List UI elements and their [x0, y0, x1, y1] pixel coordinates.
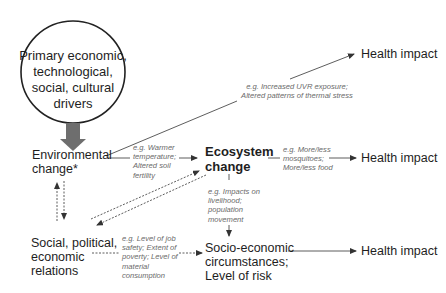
big-down-arrow-icon: [60, 123, 86, 151]
socio-line3: Level of risk: [205, 269, 294, 283]
social-line2: economic: [31, 250, 117, 264]
socio-line1: Socio-economic: [205, 241, 294, 255]
note-warmer: e.g. Warmer temperature; Altered soil fe…: [133, 143, 176, 180]
health-impact-middle: Health impact: [361, 151, 437, 165]
socio-line2: circumstances;: [205, 255, 294, 269]
note-mosquitoes-line1: e.g. More/less: [283, 145, 333, 154]
note-mosquitoes-line2: mosquitoes;: [283, 154, 333, 163]
env-to-health-top-line-b: [290, 54, 354, 79]
drivers-line4: drivers: [18, 96, 128, 112]
socio-economic-node: Socio-economic circumstances; Level of r…: [205, 241, 294, 283]
env-line2: change*: [32, 162, 112, 176]
note-warmer-line2: temperature;: [133, 152, 176, 161]
note-job-line1: e.g. Level of job: [122, 234, 178, 243]
note-livelihood-line3: population: [208, 205, 260, 214]
social-line1: Social, political,: [31, 236, 117, 250]
note-livelihood: e.g. Impacts on livelihood; population m…: [208, 187, 260, 224]
ecosystem-change-node: Ecosystem change: [205, 144, 274, 174]
health-impact-top: Health impact: [361, 47, 437, 61]
note-warmer-line3: Altered soil: [133, 161, 176, 170]
note-livelihood-line4: movement: [208, 215, 260, 224]
note-warmer-line4: fertility: [133, 171, 176, 180]
eco-to-social-dashed: [97, 175, 206, 225]
drivers-node: Primary economic, technological, social,…: [18, 48, 128, 112]
environmental-change-node: Environmental change*: [32, 148, 112, 176]
note-job-line3: poverty; Level of: [122, 252, 178, 261]
social-line3: relations: [31, 264, 117, 278]
note-uvr: e.g. Increased UVR exposure; Altered pat…: [222, 82, 372, 100]
note-job-line4: material: [122, 262, 178, 271]
social-relations-node: Social, political, economic relations: [31, 236, 117, 278]
eco-line2: change: [205, 159, 274, 174]
note-job-safety: e.g. Level of job safety; Extent of pove…: [122, 234, 178, 280]
note-job-line5: consumption: [122, 271, 178, 280]
drivers-line2: technological,: [18, 64, 128, 80]
note-warmer-line1: e.g. Warmer: [133, 143, 176, 152]
note-uvr-line2: Altered patterns of thermal stress: [222, 91, 372, 100]
drivers-line3: social, cultural: [18, 80, 128, 96]
drivers-line1: Primary economic,: [18, 48, 128, 64]
note-mosquitoes: e.g. More/less mosquitoes; More/less foo…: [283, 145, 333, 173]
note-livelihood-line2: livelihood;: [208, 196, 260, 205]
note-livelihood-line1: e.g. Impacts on: [208, 187, 260, 196]
note-mosquitoes-line3: More/less food: [283, 163, 333, 172]
note-job-line2: safety; Extent of: [122, 243, 178, 252]
eco-line1: Ecosystem: [205, 144, 274, 159]
note-uvr-line1: e.g. Increased UVR exposure;: [222, 82, 372, 91]
env-line1: Environmental: [32, 148, 112, 162]
health-impact-bottom: Health impact: [361, 244, 437, 258]
